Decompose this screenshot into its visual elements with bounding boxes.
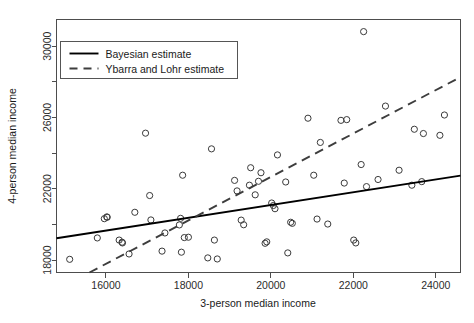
y-tick-label: 22000 bbox=[42, 174, 54, 203]
y-tick-label: 30000 bbox=[42, 31, 54, 60]
legend-label: Bayesian estimate bbox=[106, 48, 192, 60]
x-tick-label: 24000 bbox=[421, 279, 450, 291]
chart-legend: Bayesian estimateYbarra and Lohr estimat… bbox=[61, 42, 238, 79]
x-tick-label: 22000 bbox=[339, 279, 368, 291]
scatter-plot-figure: 18000220002600030000 1600018000200002200… bbox=[0, 0, 474, 323]
x-tick-label: 16000 bbox=[91, 279, 120, 291]
y-axis-title: 4-person median income bbox=[6, 88, 18, 204]
x-tick-label: 20000 bbox=[256, 279, 285, 291]
legend-label: Ybarra and Lohr estimate bbox=[106, 63, 225, 75]
y-tick-label: 18000 bbox=[42, 245, 54, 274]
x-tick-label: 18000 bbox=[174, 279, 203, 291]
y-tick-label: 26000 bbox=[42, 103, 54, 132]
x-axis-title: 3-person median income bbox=[200, 297, 316, 309]
chart-canvas: 18000220002600030000 1600018000200002200… bbox=[0, 0, 474, 323]
